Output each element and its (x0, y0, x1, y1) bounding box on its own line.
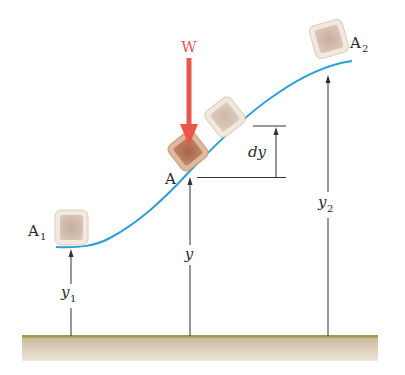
height-label-y1-sub: 1 (70, 293, 76, 304)
height-label-y1: y 1 (60, 283, 76, 304)
height-label-y: y (184, 245, 194, 263)
work-of-weight-diagram: W A A 1 A 2 y 1 y y 2 dy (0, 0, 405, 375)
block-displaced (203, 95, 248, 140)
weight-force-arrow (180, 58, 198, 146)
point-label-a2-sub: 2 (362, 43, 368, 54)
height-label-y2-sub: 2 (327, 203, 333, 214)
point-label-a1-sub: 1 (40, 231, 46, 242)
height-label-y1-main: y (60, 283, 70, 301)
ground (22, 335, 378, 361)
block-a1 (55, 210, 88, 245)
height-label-y2: y 2 (317, 193, 333, 214)
point-label-a2: A 2 (349, 34, 368, 54)
block-a2 (308, 18, 350, 60)
point-label-a2-main: A (349, 34, 361, 52)
point-label-a1: A 1 (27, 222, 46, 242)
point-label-a: A (164, 170, 176, 188)
increment-label-dy: dy (248, 143, 267, 161)
height-label-y2-main: y (317, 193, 327, 211)
point-label-a1-main: A (27, 222, 39, 240)
force-label-w: W (181, 38, 197, 56)
